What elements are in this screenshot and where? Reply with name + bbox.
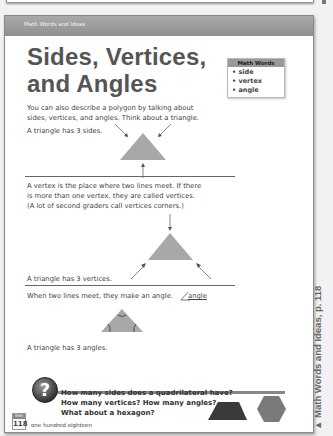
section-label: Math Words and Ideas (24, 21, 85, 27)
page-title: Sides, Vertices, and Angles (27, 43, 206, 97)
textbook-page: Math Words and Ideas Sides, Vertices, an… (4, 15, 314, 433)
math-word-angle: • angle (232, 86, 280, 95)
math-words-box: Math Words • side • vertex • angle (227, 58, 285, 98)
vertex-line-1: A vertex is the place where two lines me… (27, 181, 201, 191)
triangle-shape (120, 133, 166, 160)
trapezoid-shape (208, 402, 247, 420)
title-line-2: and Angles (27, 70, 206, 97)
angle-label: angle (188, 291, 207, 301)
hexagon-shape (257, 396, 286, 422)
triangle-shape (148, 233, 193, 260)
divider (25, 285, 235, 286)
divider (25, 176, 235, 177)
vertices-caption: A triangle has 3 vertices. (27, 274, 112, 284)
page-number-words: one hundred eighteen (31, 422, 92, 428)
question-mark-icon: ? (32, 377, 58, 403)
sides-caption: A triangle has 3 sides. (27, 126, 102, 136)
page-number-badge: SMH 118 (12, 413, 26, 430)
previous-page-edge (6, 0, 314, 3)
side-caption: ▲ Math Words and Ideas, p. 118 (312, 286, 323, 430)
vertex-line-3: (A lot of second graders call vertices c… (27, 201, 201, 211)
angle-intro: When two lines meet, they make an angle. (27, 291, 173, 301)
math-word-side: • side (232, 68, 280, 77)
title-line-1: Sides, Vertices, (27, 43, 206, 70)
angles-caption: A triangle has 3 angles. (27, 343, 107, 353)
triangle-shape (101, 309, 143, 332)
vertex-line-2: is more than one vertex, they are called… (27, 191, 201, 201)
page-mark (322, 0, 326, 4)
shapes-illustration (205, 394, 295, 429)
vertex-definition: A vertex is the place where two lines me… (27, 181, 201, 211)
page-number: 118 (13, 419, 25, 430)
intro-line-1: You can also describe a polygon by talki… (27, 103, 199, 113)
triangle-vertices-diagram (125, 213, 220, 283)
triangle-angles-diagram (97, 305, 147, 335)
math-word-vertex: • vertex (232, 77, 280, 86)
triangle-sides-diagram (105, 116, 185, 178)
section-header-bar: Math Words and Ideas (5, 16, 313, 36)
math-words-heading: Math Words (228, 59, 284, 67)
